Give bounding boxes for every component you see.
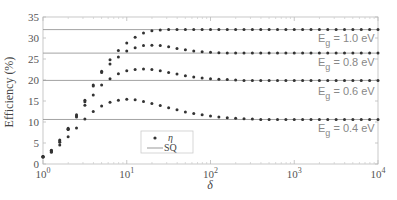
data-point (201, 76, 204, 79)
data-point (217, 78, 220, 81)
data-point (284, 28, 287, 31)
x-axis-label: δ (207, 178, 213, 192)
data-point (268, 79, 271, 82)
bandgap-label: Eg = 0.6 eV (318, 85, 375, 101)
data-point (259, 28, 262, 31)
data-point (234, 28, 237, 31)
data-point (176, 28, 179, 31)
data-point (167, 28, 170, 31)
data-point (201, 113, 204, 116)
data-point (167, 45, 170, 48)
data-point (109, 77, 112, 80)
data-point (100, 71, 103, 74)
data-point (259, 118, 262, 121)
data-point (117, 99, 120, 102)
data-point (209, 77, 212, 80)
legend: η SQ (141, 131, 193, 153)
data-point (58, 141, 61, 144)
data-point (368, 118, 371, 121)
data-point (75, 115, 78, 118)
data-point (293, 28, 296, 31)
data-point (259, 52, 262, 55)
data-point (301, 118, 304, 121)
data-point (83, 118, 86, 121)
data-point (293, 118, 296, 121)
data-point (226, 28, 229, 31)
data-point (360, 118, 363, 121)
data-point (360, 28, 363, 31)
data-point (167, 106, 170, 109)
y-tick-label: 5 (34, 137, 40, 149)
y-tick-label: 30 (28, 32, 40, 44)
data-point (184, 48, 187, 51)
data-point (259, 79, 262, 82)
data-point (268, 118, 271, 121)
data-point (67, 135, 70, 138)
data-point (293, 79, 296, 82)
data-point (142, 100, 145, 103)
data-point (377, 79, 380, 82)
data-point (368, 52, 371, 55)
data-point (109, 101, 112, 104)
y-tick-label: 20 (28, 74, 40, 86)
data-point (335, 28, 338, 31)
data-point (343, 79, 346, 82)
data-point (92, 110, 95, 113)
data-point (276, 79, 279, 82)
data-point (83, 104, 86, 107)
data-point (176, 47, 179, 50)
data-point (310, 79, 313, 82)
data-point (142, 44, 145, 47)
data-point (243, 117, 246, 120)
data-point (318, 118, 321, 121)
data-point (226, 52, 229, 55)
data-point (167, 71, 170, 74)
data-point (176, 73, 179, 76)
legend-marker-icon (153, 136, 156, 139)
y-tick-label: 10 (28, 116, 40, 128)
data-point (192, 50, 195, 53)
data-point (251, 79, 254, 82)
data-point (318, 28, 321, 31)
efficiency-chart: 05101520253035100101102103104 Eg = 1.0 e… (0, 0, 397, 200)
data-point (377, 28, 380, 31)
data-point (276, 52, 279, 55)
data-point (276, 118, 279, 121)
data-point (351, 118, 354, 121)
data-point (284, 52, 287, 55)
data-point (159, 29, 162, 32)
data-point (368, 28, 371, 31)
data-point (75, 126, 78, 129)
data-point (301, 79, 304, 82)
data-point (92, 94, 95, 97)
data-point (125, 50, 128, 53)
data-point (234, 117, 237, 120)
data-point (226, 116, 229, 119)
legend-sq-label: SQ (164, 142, 178, 153)
data-point (58, 144, 61, 147)
data-point (335, 79, 338, 82)
data-point (268, 52, 271, 55)
data-point (343, 28, 346, 31)
data-point (201, 50, 204, 53)
data-point (209, 115, 212, 118)
data-point (377, 52, 380, 55)
data-point (150, 44, 153, 47)
data-point (284, 118, 287, 121)
data-point (276, 28, 279, 31)
data-point (125, 69, 128, 72)
data-point (150, 29, 153, 32)
data-point (301, 28, 304, 31)
data-point (150, 102, 153, 105)
data-point (134, 68, 137, 71)
y-tick-label: 25 (28, 53, 40, 65)
data-point (343, 118, 346, 121)
data-point (318, 52, 321, 55)
data-point (351, 79, 354, 82)
data-point (268, 28, 271, 31)
data-point (326, 118, 329, 121)
data-point (351, 28, 354, 31)
data-point (117, 72, 120, 75)
x-tick-label: 104 (371, 166, 386, 180)
data-point (209, 51, 212, 54)
